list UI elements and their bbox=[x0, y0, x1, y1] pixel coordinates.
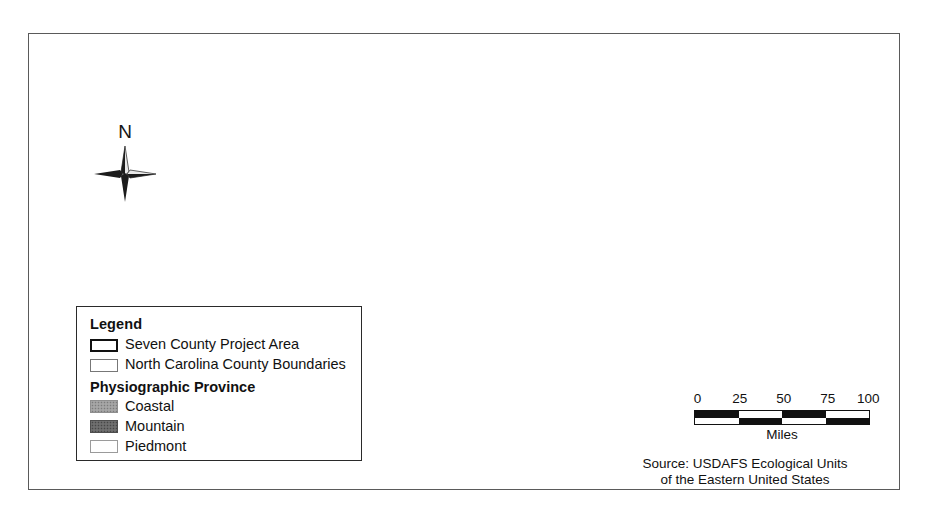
north-arrow-label: N bbox=[92, 122, 158, 141]
legend-item-coastal: Coastal bbox=[90, 397, 361, 416]
legend-item-county-boundaries: North Carolina County Boundaries bbox=[90, 356, 361, 375]
legend-swatch-county-boundaries bbox=[90, 359, 118, 372]
scale-tick-100: 100 bbox=[857, 392, 880, 406]
compass-rose-icon bbox=[92, 144, 158, 204]
legend-label-piedmont: Piedmont bbox=[125, 439, 186, 455]
legend-swatch-coastal bbox=[90, 400, 118, 413]
legend-swatch-piedmont bbox=[90, 440, 118, 453]
legend-item-project-area: Seven County Project Area bbox=[90, 336, 361, 355]
legend-title: Legend bbox=[90, 316, 361, 333]
map-legend: Legend Seven County Project Area North C… bbox=[76, 306, 362, 461]
source-note: Source: USDAFS Ecological Units of the E… bbox=[590, 456, 900, 487]
source-line-1: Source: USDAFS Ecological Units bbox=[590, 456, 900, 472]
source-line-2: of the Eastern United States bbox=[590, 472, 900, 488]
scale-tick-25: 25 bbox=[732, 392, 747, 406]
legend-label-coastal: Coastal bbox=[125, 399, 174, 415]
legend-label-mountain: Mountain bbox=[125, 419, 185, 435]
scale-bar-graphic bbox=[694, 410, 870, 425]
legend-swatch-mountain bbox=[90, 420, 118, 433]
scale-tick-50: 50 bbox=[776, 392, 791, 406]
scale-tick-0: 0 bbox=[694, 392, 702, 406]
scale-bar-units: Miles bbox=[694, 427, 870, 442]
legend-label-county-boundaries: North Carolina County Boundaries bbox=[125, 357, 346, 373]
north-carolina-physiographic-map: N Legend Seven County Project Area North… bbox=[0, 0, 929, 511]
legend-label-project-area: Seven County Project Area bbox=[125, 337, 299, 353]
north-arrow: N bbox=[92, 122, 158, 204]
scale-bar-ticks: 0 25 50 75 100 bbox=[694, 392, 870, 408]
legend-swatch-project-area bbox=[90, 339, 118, 352]
scale-tick-75: 75 bbox=[820, 392, 835, 406]
scale-bar: 0 25 50 75 100 Miles bbox=[694, 392, 870, 442]
legend-item-mountain: Mountain bbox=[90, 417, 361, 436]
legend-item-piedmont: Piedmont bbox=[90, 437, 361, 456]
legend-subtitle-physiographic-province: Physiographic Province bbox=[90, 379, 361, 396]
